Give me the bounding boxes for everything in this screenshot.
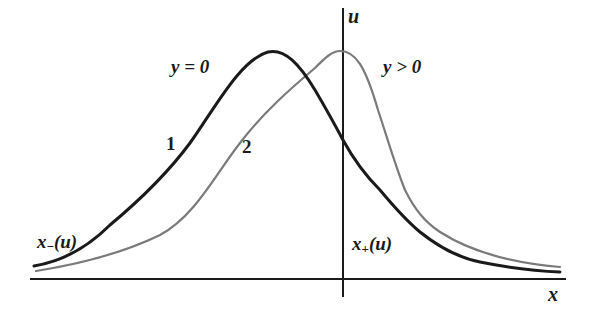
left-branch-sub: −	[47, 239, 54, 254]
x-axis-label: x	[548, 284, 558, 304]
left-branch-main: x	[37, 231, 47, 252]
diagram-canvas	[0, 0, 589, 319]
curve-1-condition-label: y = 0	[171, 57, 209, 76]
left-branch-label: x−(u)	[37, 232, 77, 251]
right-branch-label: x+(u)	[352, 234, 392, 253]
curve-1-number-label: 1	[166, 134, 176, 153]
right-branch-arg: (u)	[369, 233, 392, 254]
left-branch-arg: (u)	[54, 231, 77, 252]
curve-2-condition-label: y > 0	[383, 57, 421, 76]
right-branch-main: x	[352, 233, 362, 254]
u-axis-label: u	[348, 6, 359, 26]
curve-2-y-positive	[36, 51, 560, 271]
diagram-figure: u x y = 0 y > 0 1 2 x−(u) x+(u)	[0, 0, 589, 319]
right-branch-sub: +	[362, 241, 369, 256]
curve-2-number-label: 2	[242, 137, 252, 156]
